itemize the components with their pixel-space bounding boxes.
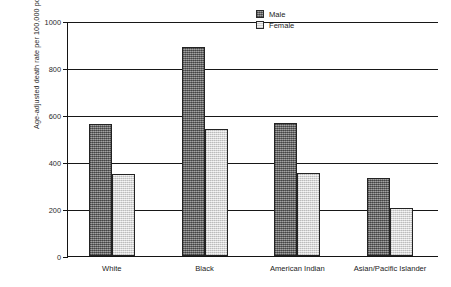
legend-item-female: Female	[256, 20, 294, 30]
legend-swatch-male	[256, 10, 264, 18]
y-tick-label: 400	[49, 159, 61, 168]
y-axis-title: Age-adjusted death rate per 100,000 popu…	[32, 0, 41, 157]
bar-group	[182, 22, 228, 256]
legend-item-male: Male	[256, 9, 294, 19]
bar-male-black	[182, 47, 205, 256]
y-tick-label: 0	[57, 253, 61, 262]
legend-label-male: Male	[269, 10, 285, 19]
y-tick-label: 200	[49, 206, 61, 215]
bars-layer	[68, 22, 438, 256]
bar-female-white	[112, 174, 135, 256]
bar-group	[367, 22, 413, 256]
plot-area: 02004006008001000 WhiteBlackAmerican Ind…	[67, 22, 438, 257]
category-label-american-indian: American Indian	[270, 264, 325, 273]
bar-group	[89, 22, 135, 256]
bar-male-american-indian	[274, 123, 297, 256]
y-tick-label: 600	[49, 112, 61, 121]
category-label-asian-pacific-islander: Asian/Pacific Islander	[354, 264, 427, 273]
legend-swatch-female	[256, 21, 264, 29]
bar-female-black	[205, 129, 228, 256]
bar-male-asian-pacific-islander	[367, 178, 390, 256]
bar-chart: Age-adjusted death rate per 100,000 popu…	[0, 0, 451, 287]
y-tick-label: 800	[49, 65, 61, 74]
legend-label-female: Female	[269, 21, 294, 30]
chart-legend: MaleFemale	[256, 9, 294, 31]
bar-female-asian-pacific-islander	[390, 208, 413, 256]
bar-group	[274, 22, 320, 256]
bar-female-american-indian	[297, 173, 320, 256]
y-tick-mark	[63, 257, 68, 258]
category-label-black: Black	[195, 264, 214, 273]
y-tick-label: 1000	[45, 18, 61, 27]
bar-male-white	[89, 124, 112, 256]
category-label-white: White	[102, 264, 121, 273]
